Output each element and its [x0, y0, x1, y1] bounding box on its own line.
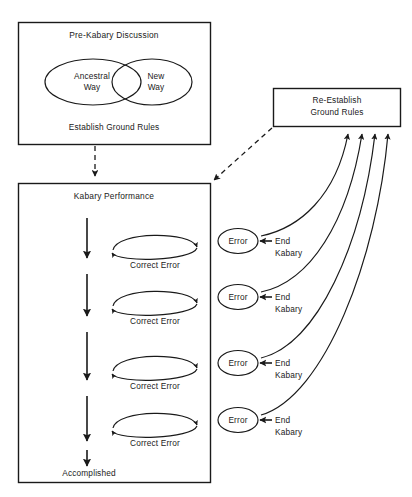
ancestral-way-label-line2: Way — [84, 82, 101, 92]
end-kabary-label-4-line2: Kabary — [275, 427, 303, 437]
kabary-performance-heading: Kabary Performance — [74, 191, 155, 201]
end-kabary-label-1-line2: Kabary — [275, 248, 303, 258]
correct-error-label-4: Correct Error — [130, 438, 180, 448]
reestablish-label-line2: Ground Rules — [311, 107, 364, 117]
feedback-curve-2 — [261, 134, 362, 292]
error-label-2: Error — [228, 292, 247, 302]
correct-error-loop-2 — [112, 291, 197, 315]
establish-ground-rules-label: Establish Ground Rules — [69, 122, 159, 132]
correct-error-loop-4 — [112, 413, 197, 437]
new-way-label-line1: New — [147, 71, 165, 81]
dashed-connector-reestablish-to-performance — [214, 128, 272, 180]
correct-error-label-3: Correct Error — [130, 381, 180, 391]
ancestral-way-label-line1: Ancestral — [74, 71, 110, 81]
end-kabary-label-2-line1: End — [275, 292, 290, 302]
correct-error-loop-3 — [112, 356, 197, 380]
end-kabary-label-3-line1: End — [275, 358, 290, 368]
diagram-svg: Pre-Kabary Discussion Ancestral Way New … — [0, 0, 412, 497]
error-label-4: Error — [228, 415, 247, 425]
kabary-performance-box — [19, 184, 211, 483]
error-label-1: Error — [228, 236, 247, 246]
feedback-curve-1 — [261, 134, 348, 236]
diagram-canvas: Pre-Kabary Discussion Ancestral Way New … — [0, 0, 412, 497]
end-kabary-label-4-line1: End — [275, 415, 290, 425]
end-kabary-label-1-line1: End — [275, 236, 290, 246]
pre-kabary-heading: Pre-Kabary Discussion — [69, 30, 159, 40]
feedback-curve-3 — [261, 134, 375, 358]
new-way-label-line2: Way — [148, 82, 165, 92]
accomplished-label: Accomplished — [62, 468, 116, 478]
kabary-performance-box-outline — [19, 184, 211, 483]
correct-error-label-1: Correct Error — [130, 260, 180, 270]
correct-error-loop-1 — [112, 235, 197, 259]
end-kabary-label-3-line2: Kabary — [275, 370, 303, 380]
reestablish-label-line1: Re-Establish — [313, 95, 362, 105]
error-label-3: Error — [228, 358, 247, 368]
venn-diagram — [45, 59, 192, 105]
correct-error-label-2: Correct Error — [130, 316, 180, 326]
end-kabary-label-2-line2: Kabary — [275, 304, 303, 314]
